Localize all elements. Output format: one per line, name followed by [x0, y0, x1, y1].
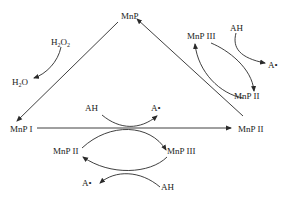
arrow-mnpii-to-mnpiii-center: [82, 129, 166, 150]
node-ah-bottom: AH: [161, 182, 174, 192]
node-mnp-ii-upper-right: MnP II: [234, 91, 259, 101]
node-mnp-iii-center: MnP III: [167, 146, 195, 156]
node-a-radical-bottom: A•: [82, 178, 92, 188]
arrow-ah-to-a-top: [235, 33, 265, 63]
arrow-ah-to-a-bottom: [100, 174, 160, 187]
node-mnp-iii-top: MnP III: [187, 31, 215, 41]
node-mnp-i: MnP I: [10, 124, 32, 134]
mnp-cycle-diagram: MnP H2O2 H2O MnP III AH A• MnP II MnP I …: [0, 0, 286, 198]
node-h2o: H2O: [12, 77, 28, 87]
node-a-radical-top: A•: [268, 60, 278, 70]
arrow-ah-to-a-center: [102, 115, 157, 126]
node-a-radical-center: A•: [151, 103, 161, 113]
arrow-h2o2-to-h2o: [34, 47, 61, 78]
node-mnp-ii-left: MnP II: [53, 146, 78, 156]
node-h2o2: H2O2: [51, 37, 70, 47]
node-ah-top: AH: [230, 23, 243, 33]
node-ah-center: AH: [85, 103, 98, 113]
node-mnp: MnP: [121, 11, 139, 21]
arrow-mnpiii-to-mnpii-top: [211, 43, 254, 91]
arrow-mnpiii-to-mnpii-center: [83, 157, 167, 171]
arrow-mnpii-to-mnpiii-top: [195, 44, 243, 98]
node-mnp-ii-right: MnP II: [238, 124, 263, 134]
